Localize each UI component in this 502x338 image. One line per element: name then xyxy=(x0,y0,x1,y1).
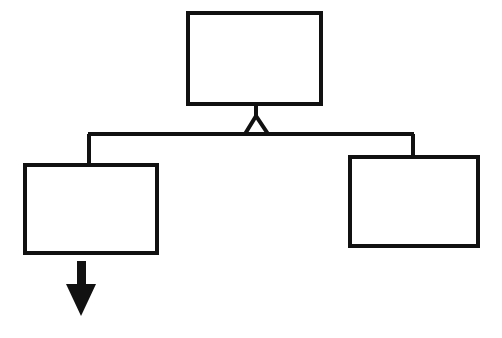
left-block[interactable] xyxy=(25,165,157,253)
output-arrow-head xyxy=(66,284,96,316)
diagram-svg xyxy=(0,0,502,338)
diagram-canvas xyxy=(0,0,502,338)
output-arrow-shaft xyxy=(77,261,86,285)
bus-junction-triangle xyxy=(245,116,268,134)
right-block[interactable] xyxy=(350,157,478,246)
output-arrow-down xyxy=(66,261,96,316)
top-block[interactable] xyxy=(188,13,321,104)
